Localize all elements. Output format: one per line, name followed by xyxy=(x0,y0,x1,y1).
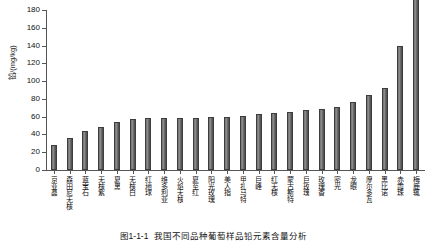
x-tick-label: 红地球 xyxy=(145,176,153,232)
x-tick-label: 维多利亚 xyxy=(160,176,168,232)
y-tick-label: 60 xyxy=(31,112,40,121)
x-tick-mark xyxy=(400,170,401,174)
x-tick-mark xyxy=(243,170,244,174)
x-tick-mark xyxy=(306,170,307,174)
x-tick-mark xyxy=(117,170,118,174)
x-tick-label: 梅鹿辄 xyxy=(412,176,420,232)
x-tick-label: 蓝宝石 xyxy=(82,176,90,232)
x-tick-label: 阳光玫瑰 xyxy=(208,176,216,232)
x-tick-mark xyxy=(337,170,338,174)
x-tick-mark xyxy=(259,170,260,174)
x-tick-label: 火焰无核 xyxy=(176,176,184,232)
x-tick-label: 摩尔多瓦 xyxy=(365,176,373,232)
x-tick-mark xyxy=(416,170,417,174)
x-tick-mark xyxy=(369,170,370,174)
x-tick-label: 蒙古斯特 xyxy=(286,176,294,232)
y-tick-label: 20 xyxy=(31,147,40,156)
y-tick-label: 100 xyxy=(27,76,40,85)
x-tick-mark xyxy=(164,170,165,174)
bar xyxy=(161,118,167,170)
bar xyxy=(224,117,230,170)
x-tick-mark xyxy=(290,170,291,174)
x-tick-mark xyxy=(211,170,212,174)
bar xyxy=(366,95,372,170)
bar xyxy=(303,110,309,170)
y-tick-mark xyxy=(42,63,46,64)
x-tick-mark xyxy=(322,170,323,174)
y-tick-label: 80 xyxy=(31,94,40,103)
bar xyxy=(51,145,57,170)
bar xyxy=(98,127,104,170)
x-tick-mark xyxy=(133,170,134,174)
bar xyxy=(82,131,88,170)
caption-text: 我国不同品种葡萄样品铅元素含量分析 xyxy=(154,231,307,241)
y-tick-mark xyxy=(42,117,46,118)
y-tick-mark xyxy=(42,28,46,29)
x-tick-label: 无核白 xyxy=(129,176,137,232)
x-tick-mark xyxy=(274,170,275,174)
bar xyxy=(319,109,325,170)
x-tick-label: 黑比诺 xyxy=(381,176,389,232)
x-tick-label: 夏至红 xyxy=(192,176,200,232)
y-tick-label: 0 xyxy=(36,165,40,174)
x-tick-label: 夏黑 xyxy=(113,176,121,232)
x-tick-label: 无核紫 xyxy=(97,176,105,232)
bar xyxy=(397,46,403,170)
x-tick-mark xyxy=(85,170,86,174)
x-tick-mark xyxy=(385,170,386,174)
y-tick-mark xyxy=(42,134,46,135)
x-tick-label: 红无核 xyxy=(271,176,279,232)
x-tick-label: 赤霞珠 xyxy=(397,176,405,232)
x-tick-mark xyxy=(196,170,197,174)
x-tick-label: 森田尼无核 xyxy=(66,176,74,232)
plot-area: 020406080100120140160180 xyxy=(46,10,424,170)
x-tick-label: 龙眼 xyxy=(349,176,357,232)
x-tick-mark xyxy=(148,170,149,174)
y-tick-label: 180 xyxy=(27,5,40,14)
y-axis-title: 铅/(mg/kg) xyxy=(8,29,17,97)
bar xyxy=(177,118,183,170)
y-tick-mark xyxy=(42,152,46,153)
x-tick-mark xyxy=(180,170,181,174)
y-tick-label: 140 xyxy=(27,41,40,50)
y-tick-label: 120 xyxy=(27,58,40,67)
bar xyxy=(271,113,277,170)
x-tick-mark xyxy=(227,170,228,174)
y-tick-label: 160 xyxy=(27,23,40,32)
x-tick-label: 美人指 xyxy=(223,176,231,232)
bar xyxy=(256,114,262,170)
x-tick-label: 甲扎马特 xyxy=(239,176,247,232)
x-tick-mark xyxy=(70,170,71,174)
bar xyxy=(382,88,388,170)
x-tick-mark xyxy=(101,170,102,174)
x-tick-label: 巨峰 xyxy=(255,176,263,232)
y-tick-mark xyxy=(42,99,46,100)
x-tick-label: 巨玫瑰 xyxy=(302,176,310,232)
bar xyxy=(145,118,151,170)
bar xyxy=(193,118,199,170)
bar xyxy=(334,107,340,170)
bar xyxy=(240,116,246,170)
x-tick-label: 密光 xyxy=(334,176,342,232)
y-tick-mark xyxy=(42,170,46,171)
figure-container: 铅/(mg/kg) 020406080100120140160180 京亚晶森田… xyxy=(0,0,427,246)
bar xyxy=(208,117,214,170)
y-tick-label: 40 xyxy=(31,129,40,138)
x-tick-mark xyxy=(54,170,55,174)
figure-caption: 图1-1-1我国不同品种葡萄样品铅元素含量分析 xyxy=(0,231,427,242)
y-tick-mark xyxy=(42,46,46,47)
bar xyxy=(287,112,293,170)
y-tick-mark xyxy=(42,10,46,11)
x-tick-label: 京亚晶 xyxy=(50,176,58,232)
bar xyxy=(130,119,136,170)
caption-number: 图1-1-1 xyxy=(120,231,149,241)
x-tick-mark xyxy=(353,170,354,174)
x-tick-label: 玫瑰香 xyxy=(318,176,326,232)
bar xyxy=(67,138,73,170)
bar xyxy=(350,102,356,170)
y-tick-mark xyxy=(42,81,46,82)
bar xyxy=(413,0,419,170)
bar xyxy=(114,122,120,170)
